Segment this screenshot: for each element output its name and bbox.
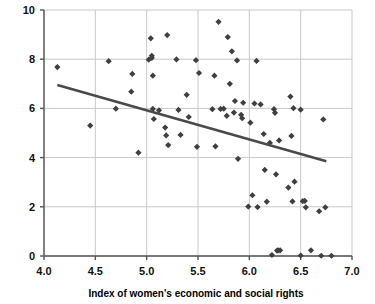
y-tick-label: 8 [29,53,35,65]
y-tick-label: 2 [29,201,35,213]
x-tick-label: 7.0 [344,265,359,277]
x-tick-label: 4.5 [88,265,103,277]
x-tick-label: 6.5 [293,265,308,277]
chart-background [0,0,375,304]
x-tick-label: 4.0 [36,265,51,277]
y-tick-label: 0 [29,250,35,262]
x-tick-label: 6.0 [242,265,257,277]
scatter-chart: 4.04.55.05.56.06.57.0 0246810 Index of w… [0,0,375,304]
x-tick-label: 5.5 [190,265,205,277]
y-tick-label: 10 [23,4,35,16]
x-tick-label: 5.0 [139,265,154,277]
y-tick-label: 4 [29,152,36,164]
y-tick-label: 6 [29,102,35,114]
chart-canvas: 4.04.55.05.56.06.57.0 0246810 Index of w… [0,0,375,304]
x-axis-title: Index of women's economic and social rig… [88,288,304,299]
